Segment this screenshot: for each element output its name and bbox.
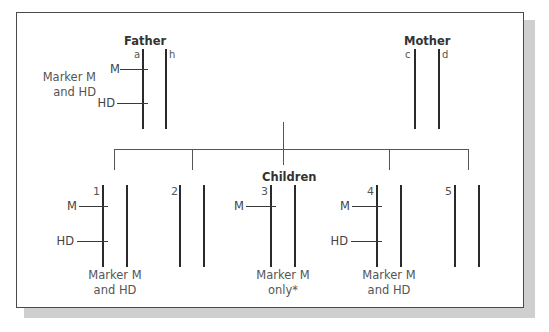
child-4-marker-hd-tick <box>351 241 382 242</box>
child-4-chromosome-right <box>400 185 402 267</box>
child-4-drop <box>389 149 390 170</box>
child-1-drop <box>114 149 115 170</box>
child-5-number: 5 <box>445 186 452 198</box>
child-1-marker-hd-tick <box>77 241 108 242</box>
child-5-chromosome-left <box>454 185 456 267</box>
child-2-chromosome-right <box>203 185 205 267</box>
child-3-caption-line2: only* <box>248 283 318 298</box>
child-4-marker-hd-label: HD <box>318 235 348 247</box>
child-1-caption-line2: and HD <box>80 283 150 298</box>
father-chromosome-h-label: h <box>169 49 175 61</box>
mother-chromosome-c-label: c <box>405 49 411 61</box>
child-3-caption: Marker M only* <box>248 268 318 298</box>
father-caption: Marker M and HD <box>36 70 96 100</box>
child-4-number: 4 <box>367 186 374 198</box>
sibship-line <box>114 149 469 150</box>
child-4-caption-line2: and HD <box>354 283 424 298</box>
child-4-caption-line1: Marker M <box>354 268 424 283</box>
child-5-chromosome-right <box>478 185 480 267</box>
child-3-caption-line1: Marker M <box>248 268 318 283</box>
child-3-chromosome-left <box>270 185 272 267</box>
child-4-marker-m-tick <box>352 206 382 207</box>
father-title: Father <box>124 34 166 48</box>
father-marker-hd-tick <box>117 103 148 104</box>
child-1-marker-hd-label: HD <box>44 235 74 247</box>
child-1-marker-m-label: M <box>47 200 77 212</box>
child-1-chromosome-left <box>102 185 104 267</box>
father-chromosome-h <box>165 49 167 129</box>
child-4-chromosome-left <box>376 185 378 267</box>
father-caption-line2: and HD <box>36 85 96 100</box>
child-3-number: 3 <box>261 186 268 198</box>
child-1-chromosome-right <box>126 185 128 267</box>
parent-connector-line <box>283 122 284 165</box>
father-caption-line1: Marker M <box>36 70 96 85</box>
child-2-number: 2 <box>171 186 178 198</box>
mother-chromosome-d <box>438 49 440 129</box>
father-marker-m-tick <box>120 69 148 70</box>
child-2-drop <box>192 149 193 170</box>
mother-chromosome-c <box>414 49 416 129</box>
child-5-drop <box>468 149 469 170</box>
mother-chromosome-d-label: d <box>442 49 448 61</box>
child-3-marker-m-label: M <box>214 200 244 212</box>
children-title: Children <box>262 170 316 184</box>
mother-title: Mother <box>404 34 451 48</box>
child-3-marker-m-tick <box>246 206 276 207</box>
child-4-marker-m-label: M <box>320 200 350 212</box>
child-1-caption-line1: Marker M <box>80 268 150 283</box>
child-3-chromosome-right <box>294 185 296 267</box>
child-1-number: 1 <box>93 186 100 198</box>
child-1-caption: Marker M and HD <box>80 268 150 298</box>
child-4-caption: Marker M and HD <box>354 268 424 298</box>
father-chromosome-a-label: a <box>134 49 140 61</box>
child-2-chromosome-left <box>179 185 181 267</box>
father-chromosome-a <box>142 49 144 129</box>
child-1-marker-m-tick <box>79 206 108 207</box>
